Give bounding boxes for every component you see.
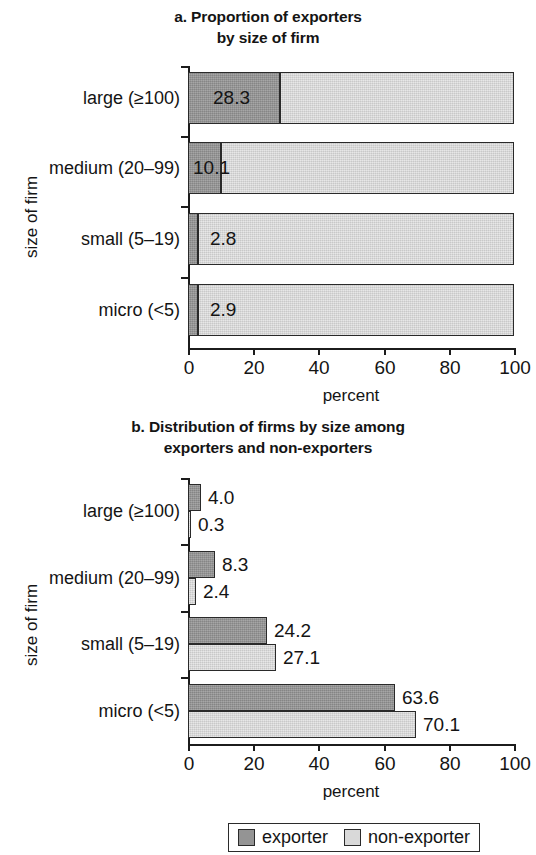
chart-panel-b: b. Distribution of firms by size among e… [0,416,536,458]
panel-a-value-micro-exporter: 2.9 [210,299,236,321]
panel-b-y-tick-0 [181,478,188,480]
panel-a-x-tick-3 [384,348,386,355]
panel-b-bar-micro-exporter [188,684,395,711]
panel-b-category-label-micro: micro (<5) [98,701,180,722]
legend-label-non-exporter: non-exporter [368,827,470,848]
panel-a-bar-small-exporter [188,213,198,265]
chart-legend: exporter non-exporter [228,823,480,852]
panel-a-y-tick-1 [181,136,188,138]
panel-b-x-ticklabel-5: 100 [499,753,531,775]
panel-b-y-tick-1 [181,544,188,546]
panel-a-bar-micro-non-exporter [198,284,514,336]
panel-a-value-large-exporter: 28.3 [213,87,250,109]
panel-b-bar-micro-non-exporter [188,711,416,738]
panel-a-x-tick-2 [318,348,320,355]
panel-b-x-ticklabel-0: 0 [184,753,195,775]
legend-item-exporter: exporter [238,827,328,848]
panel-b-y-tick-3 [181,677,188,679]
panel-a-value-small-exporter: 2.8 [210,228,236,250]
panel-a-bar-micro-exporter [188,284,198,336]
panel-a-x-ticklabel-2: 40 [308,357,329,379]
panel-b-bar-large-non-exporter [188,511,191,538]
panel-b-bar-medium-exporter [188,551,215,578]
panel-b-x-tick-1 [253,744,255,751]
panel-b-value-medium-non-exporter: 2.4 [203,581,229,603]
panel-b-x-ticklabel-3: 60 [374,753,395,775]
panel-b-x-axis-title: percent [188,782,514,802]
panel-a-y-axis-title: size of firm [22,176,42,258]
panel-b-x-axis-line [188,744,516,746]
legend-swatch-exporter-icon [238,829,255,846]
panel-b-x-tick-5 [514,744,516,751]
panel-a-x-ticklabel-0: 0 [184,357,195,379]
panel-b-bar-small-non-exporter [188,644,276,671]
panel-a-x-ticklabel-3: 60 [374,357,395,379]
panel-a-plot-area: 28.3 10.1 2.8 2.9 0 20 40 60 80 100 perc… [188,66,514,348]
panel-b-category-label-medium: medium (20–99) [49,568,180,589]
panel-b-y-axis-title: size of firm [22,584,42,666]
panel-b-x-tick-3 [384,744,386,751]
panel-a-x-tick-1 [253,348,255,355]
panel-b-x-ticklabel-4: 80 [439,753,460,775]
panel-b-plot-area: 4.0 0.3 8.3 2.4 24.2 27.1 63.6 70.1 0 20… [188,478,514,744]
panel-b-value-large-non-exporter: 0.3 [198,514,224,536]
panel-a-bar-large-non-exporter [280,72,514,124]
panel-a-title-line-2: by size of firm [18,27,518,48]
panel-a-bar-small-non-exporter [198,213,514,265]
panel-a-category-label-medium: medium (20–99) [49,158,180,179]
panel-b-bar-large-exporter [188,484,201,511]
panel-b-value-medium-exporter: 8.3 [222,554,248,576]
panel-a-x-tick-5 [514,348,516,355]
panel-b-category-label-large: large (≥100) [83,501,180,522]
panel-a-bar-medium-non-exporter [221,142,514,194]
panel-a-y-tick-2 [181,206,188,208]
panel-b-x-ticklabel-2: 40 [308,753,329,775]
panel-a-y-tick-3 [181,277,188,279]
panel-a-x-axis-title: percent [188,386,514,406]
panel-a-category-label-micro: micro (<5) [98,300,180,321]
panel-a-value-medium-exporter: 10.1 [193,157,230,179]
panel-b-value-micro-non-exporter: 70.1 [423,714,460,736]
panel-b-x-tick-0 [188,744,190,751]
panel-a-category-label-small: small (5–19) [81,229,180,250]
panel-b-value-small-non-exporter: 27.1 [283,647,320,669]
panel-b-value-large-exporter: 4.0 [208,487,234,509]
panel-a-y-tick-0 [181,66,188,68]
panel-b-title-line-2: exporters and non-exporters [18,437,518,458]
chart-panel-a: a. Proportion of exporters by size of fi… [0,6,536,48]
legend-swatch-non-exporter-icon [344,829,361,846]
panel-a-x-axis-line [188,348,516,350]
legend-label-exporter: exporter [262,827,328,848]
panel-b-x-tick-2 [318,744,320,751]
panel-a-category-label-large: large (≥100) [83,88,180,109]
panel-b-bar-small-exporter [188,617,267,644]
panel-b-title: b. Distribution of firms by size among e… [0,416,536,458]
panel-b-value-micro-exporter: 63.6 [402,687,439,709]
panel-a-x-ticklabel-4: 80 [439,357,460,379]
panel-a-title-line-1: a. Proportion of exporters [18,6,518,27]
panel-a-x-tick-0 [188,348,190,355]
panel-b-title-line-1: b. Distribution of firms by size among [18,416,518,437]
panel-b-x-ticklabel-1: 20 [243,753,264,775]
panel-b-category-label-small: small (5–19) [81,634,180,655]
panel-a-x-ticklabel-1: 20 [243,357,264,379]
panel-a-x-tick-4 [449,348,451,355]
panel-b-y-tick-2 [181,611,188,613]
panel-a-x-ticklabel-5: 100 [499,357,531,379]
panel-b-value-small-exporter: 24.2 [274,620,311,642]
panel-b-x-tick-4 [449,744,451,751]
panel-a-title: a. Proportion of exporters by size of fi… [0,6,536,48]
legend-item-non-exporter: non-exporter [344,827,470,848]
panel-b-bar-medium-non-exporter [188,578,196,605]
